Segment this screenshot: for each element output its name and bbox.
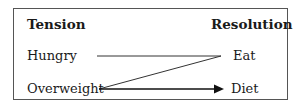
connector-lines	[0, 0, 301, 108]
arrowhead-icon	[214, 85, 224, 94]
line-overweight-eat	[99, 56, 221, 89]
